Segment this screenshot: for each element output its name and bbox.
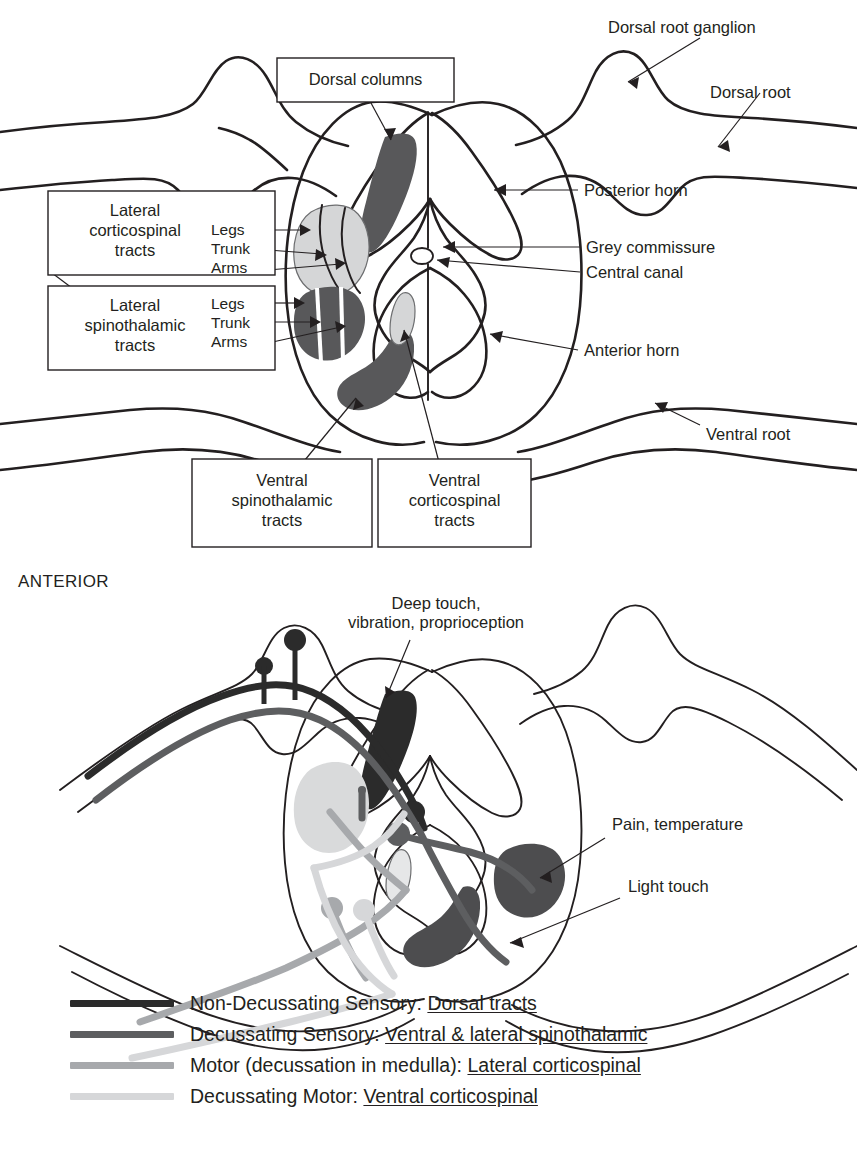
legend-prefix-2: Motor (decussation in medulla): [190,1054,467,1076]
legend-prefix-1: Decussating Sensory: [190,1023,385,1045]
legend-row-0: Non-Decussating Sensory: Dorsal tracts [70,990,537,1016]
legend-tract-3: Ventral corticospinal [363,1085,538,1107]
top-diagram-graphics [0,0,857,1156]
label-dorsal-root: Dorsal root [710,83,791,102]
bottom-right-dorsal-root-sheath [520,605,857,800]
dorsal-columns-shape [360,134,417,253]
label-posterior-horn: Posterior horn [584,181,688,200]
right-grey-matter [430,113,522,398]
label-anterior-horn: Anterior horn [584,341,679,360]
legend-label-non-decussating-sensory: Non-Decussating Sensory: Dorsal tracts [190,992,537,1015]
label-lateral-spinothalamic-line2: spinothalamic [50,315,220,335]
legend-prefix-3: Decussating Motor: [190,1085,363,1107]
label-ventral-corticospinal-line1: Ventral [378,470,531,490]
right-ventral-root-sheath [506,409,857,484]
right-hemicord-outline [432,102,581,444]
lateral-corticospinal-shape [294,205,369,296]
label-ventral-corticospinal-line2: corticospinal [378,490,531,510]
somatotopy-corticospinal-arms: Arms [211,258,250,277]
legend-label-lateral-corticospinal: Motor (decussation in medulla): Lateral … [190,1054,641,1077]
label-deep-touch-line2: vibration, proprioception [296,613,576,632]
label-ventral-corticospinal: Ventral corticospinal tracts [378,470,531,530]
label-ventral-spinothalamic-line2: spinothalamic [192,490,372,510]
spinal-cord-tracts-figure: Dorsal columns Lateral corticospinal tra… [0,0,857,1156]
label-ventral-corticospinal-line3: tracts [378,510,531,530]
legend-tract-1: Ventral & lateral spinothalamic [385,1023,647,1045]
label-ventral-spinothalamic-line3: tracts [192,510,372,530]
label-lateral-spinothalamic-line3: tracts [50,335,220,355]
legend-tract-2: Lateral corticospinal [467,1054,640,1076]
label-dorsal-columns: Dorsal columns [277,69,454,89]
label-ventral-spinothalamic: Ventral spinothalamic tracts [192,470,372,530]
legend-swatch-lateral-corticospinal [70,1062,174,1069]
label-pain-temperature: Pain, temperature [612,815,743,834]
legend-prefix-0: Non-Decussating Sensory: [190,992,427,1014]
orientation-label-anterior: ANTERIOR [18,572,109,592]
legend-label-ventral-corticospinal: Decussating Motor: Ventral corticospinal [190,1085,538,1108]
bottom-lateral-spinothalamic-right-shape [494,844,565,918]
label-ventral-spinothalamic-line1: Ventral [192,470,372,490]
label-lateral-corticospinal: Lateral corticospinal tracts [50,200,220,260]
label-deep-touch: Deep touch, vibration, proprioception [296,594,576,633]
somatotopy-spinothalamic-legs: Legs [211,294,250,313]
label-central-canal: Central canal [586,263,683,282]
label-lateral-corticospinal-line1: Lateral [50,200,220,220]
label-lateral-corticospinal-line3: tracts [50,240,220,260]
somatotopy-spinothalamic-trunk: Trunk [211,313,250,332]
legend-row-1: Decussating Sensory: Ventral & lateral s… [70,1021,647,1047]
somatotopy-corticospinal-trunk: Trunk [211,239,250,258]
legend-swatch-decussating-sensory [70,1031,174,1038]
somatotopy-spinothalamic-arms: Arms [211,332,250,351]
label-lateral-corticospinal-line2: corticospinal [50,220,220,240]
label-lateral-spinothalamic-line1: Lateral [50,295,220,315]
label-grey-commissure: Grey commissure [586,238,715,257]
label-dorsal-root-ganglion: Dorsal root ganglion [608,18,756,37]
bottom-lateral-corticospinal-shape [294,762,369,853]
central-canal-ellipse [411,248,433,264]
somatotopy-spinothalamic: Legs Trunk Arms [211,294,250,352]
legend-swatch-non-decussating-sensory [70,1000,174,1007]
label-ventral-root: Ventral root [706,425,790,444]
legend-label-decussating-sensory: Decussating Sensory: Ventral & lateral s… [190,1023,647,1046]
legend-row-2: Motor (decussation in medulla): Lateral … [70,1052,641,1078]
legend-swatch-ventral-corticospinal [70,1093,174,1100]
somatotopy-corticospinal-legs: Legs [211,220,250,239]
somatotopy-corticospinal: Legs Trunk Arms [211,220,250,278]
legend-tract-0: Dorsal tracts [427,992,536,1014]
label-lateral-spinothalamic: Lateral spinothalamic tracts [50,295,220,355]
label-deep-touch-line1: Deep touch, [296,594,576,613]
legend-row-3: Decussating Motor: Ventral corticospinal [70,1083,538,1109]
label-light-touch: Light touch [628,877,709,896]
lateral-spinothalamic-shape [294,287,365,362]
